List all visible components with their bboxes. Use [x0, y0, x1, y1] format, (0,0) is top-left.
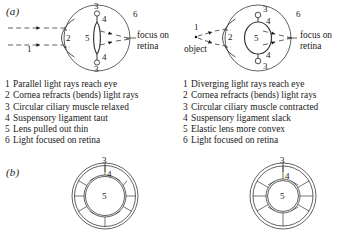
caption-number: 2 [183, 90, 191, 101]
label-ligament-4-bottom-left: 4 [102, 53, 107, 62]
caption-number: 2 [5, 90, 13, 101]
panel-b-label: (b) [6, 166, 19, 178]
label-lens-5-left: 5 [85, 34, 90, 43]
accommodation-figure: (a) (b) [0, 0, 361, 235]
caption-number: 5 [183, 124, 191, 135]
label-muscle-3-ring-right: 3 [280, 156, 285, 165]
ciliary-muscle-bottom-2 [255, 58, 261, 64]
caption-text: Diverging light rays reach eye [191, 79, 304, 89]
refracted-rays-converging [100, 31, 131, 45]
label-lens-5-ring-right: 5 [280, 192, 285, 201]
label-muscle-3-ring-left: 3 [102, 156, 107, 165]
caption-number: 5 [5, 124, 13, 135]
focus-on-retina-text-left-line1: focus on [137, 30, 169, 41]
caption-number: 4 [183, 113, 191, 124]
eye-accommodated-drawing [195, 5, 297, 71]
caption-list-contracted: 1Diverging light rays reach eye 2Cornea … [183, 79, 318, 147]
caption-text: Light focused on retina [191, 135, 278, 145]
focus-on-retina-text-left-line2: retina [137, 41, 158, 52]
caption-item: 6Light focused on retina [183, 135, 318, 146]
caption-text: Suspensory ligament slack [191, 113, 291, 123]
caption-text: Cornea refracts (bends) light rays [13, 90, 138, 100]
eye-relaxed-drawing [8, 5, 136, 71]
caption-number: 6 [183, 135, 191, 146]
caption-text: Parallel light rays reach eye [13, 79, 117, 89]
label-ciliary-3-bottom-left: 3 [94, 65, 99, 74]
object-text: object [184, 44, 207, 55]
caption-item: 6Light focused on retina [5, 135, 138, 146]
ciliary-muscle-top [94, 11, 99, 16]
caption-item: 5Lens pulled out thin [5, 124, 138, 135]
caption-number: 6 [5, 135, 13, 146]
caption-item: 3Circular ciliary muscle contracted [183, 102, 318, 113]
focus-on-retina-text-right-line1: focus on [300, 30, 332, 41]
caption-number: 3 [183, 102, 191, 113]
caption-text: Lens pulled out thin [13, 124, 88, 134]
caption-item: 2Cornea refracts (bends) light rays [183, 90, 318, 101]
caption-item: 1Parallel light rays reach eye [5, 79, 138, 90]
lens-thin [94, 22, 101, 54]
label-lens-5-ring-left: 5 [102, 192, 107, 201]
label-cornea-2-left: 2 [66, 34, 71, 43]
caption-text: Cornea refracts (bends) light rays [191, 90, 316, 100]
label-ciliary-3-top-left: 3 [94, 2, 99, 11]
incoming-parallel-rays [8, 28, 65, 45]
caption-item: 5Elastic lens more convex [183, 124, 318, 135]
ciliary-muscle-top-2 [255, 12, 261, 18]
caption-item: 2Cornea refracts (bends) light rays [5, 90, 138, 101]
caption-item: 4Suspensory ligament slack [183, 113, 318, 124]
label-ligament-4-top-left: 4 [102, 15, 107, 24]
caption-number: 3 [5, 102, 13, 113]
label-ray-1-right: 1 [194, 23, 199, 32]
caption-text: Circular ciliary muscle contracted [191, 102, 318, 112]
caption-number: 4 [5, 113, 13, 124]
label-ligament-4-bottom-right: 4 [266, 51, 271, 60]
object-point [195, 36, 198, 39]
caption-number: 1 [5, 79, 13, 90]
label-cornea-2-right: 2 [228, 33, 233, 42]
caption-item: 1Diverging light rays reach eye [183, 79, 318, 90]
label-ligament-4-ring-right: 4 [285, 172, 290, 181]
caption-number: 1 [183, 79, 191, 90]
caption-text: Light focused on retina [13, 135, 100, 145]
label-ligament-4-top-right: 4 [266, 17, 271, 26]
caption-text: Elastic lens more convex [191, 124, 285, 134]
label-lens-5-right: 5 [254, 34, 259, 43]
panel-a-label: (a) [6, 5, 19, 17]
label-retina-6-left: 6 [133, 10, 138, 19]
label-ciliary-3-top-right: 3 [263, 5, 268, 14]
caption-item: 4Suspensory ligament taut [5, 113, 138, 124]
caption-text: Suspensory ligament taut [13, 113, 108, 123]
caption-item: 3Circular ciliary muscle relaxed [5, 102, 138, 113]
focus-on-retina-text-right-line2: retina [300, 41, 321, 52]
caption-list-relaxed: 1Parallel light rays reach eye 2Cornea r… [5, 79, 138, 147]
label-ray-1-left: 1 [27, 45, 32, 54]
label-retina-6-right: 6 [296, 10, 301, 19]
label-ciliary-3-bottom-right: 3 [263, 62, 268, 71]
caption-text: Circular ciliary muscle relaxed [13, 102, 129, 112]
eyeball-outline [64, 5, 130, 71]
refracted-rays-converging-2 [263, 31, 292, 45]
label-ligament-4-ring-left: 4 [107, 170, 112, 179]
